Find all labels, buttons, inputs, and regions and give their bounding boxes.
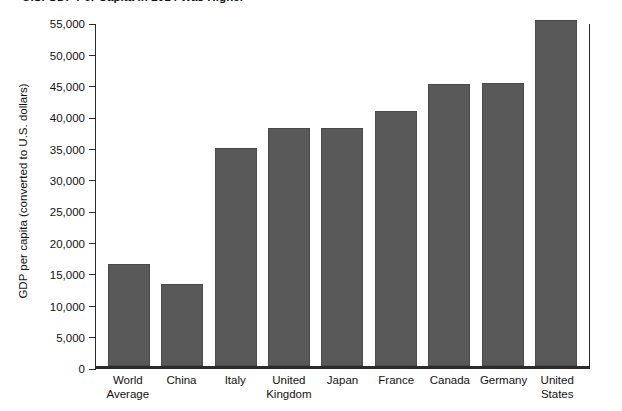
bar: [161, 284, 203, 366]
x-axis-label-line: France: [369, 374, 423, 388]
x-axis-label-line: Canada: [423, 374, 477, 388]
bar-slot: [209, 24, 262, 366]
x-axis-label-line: World: [101, 374, 155, 388]
x-axis-label: France: [369, 374, 423, 401]
x-axis-label: Japan: [316, 374, 370, 401]
bar-slot: [102, 24, 155, 366]
y-tick-label: 15,000: [50, 270, 85, 282]
y-tick-label: 45,000: [50, 81, 85, 93]
y-tick-label: 20,000: [50, 238, 85, 250]
x-axis-label: Canada: [423, 374, 477, 401]
y-tick-mark: [89, 212, 96, 213]
y-tick-mark: [89, 243, 96, 244]
bar: [321, 128, 363, 366]
x-axis-label: Italy: [208, 374, 262, 401]
chart-title: U.S. GDP Per Capita in 2014 Was Higher: [22, 0, 244, 3]
plot-area: 55,00050,00045,00040,00035,00030,00025,0…: [95, 24, 590, 369]
y-tick-mark: [89, 369, 96, 370]
y-tick-label: 0: [79, 364, 85, 376]
y-axis-title: GDP per capita (converted to U.S. dollar…: [17, 56, 29, 326]
y-tick-mark: [89, 55, 96, 56]
bar-slot: [476, 24, 529, 366]
bar-slot: [155, 24, 208, 366]
y-tick-label: 10,000: [50, 301, 85, 313]
y-tick-mark: [89, 24, 96, 25]
bar: [535, 20, 577, 366]
x-axis-label: WorldAverage: [101, 374, 155, 401]
bar: [375, 111, 417, 366]
x-axis-label: UnitedStates: [530, 374, 584, 401]
y-tick-mark: [89, 306, 96, 307]
x-axis-label-line: States: [530, 388, 584, 402]
x-axis-label-line: Kingdom: [262, 388, 316, 402]
x-axis-label: China: [155, 374, 209, 401]
bar: [215, 148, 257, 366]
bar-slot: [369, 24, 422, 366]
y-tick-mark: [89, 274, 96, 275]
x-axis-label-line: Japan: [316, 374, 370, 388]
bar-slot: [316, 24, 369, 366]
x-axis-labels: WorldAverageChinaItalyUnitedKingdomJapan…: [95, 374, 590, 401]
y-tick-label: 25,000: [50, 207, 85, 219]
x-axis-label-line: Germany: [477, 374, 531, 388]
x-axis-label-line: United: [530, 374, 584, 388]
bar: [482, 83, 524, 366]
y-tick-label: 5,000: [56, 332, 85, 344]
y-tick-mark: [89, 118, 96, 119]
bar: [428, 84, 470, 366]
bar: [108, 264, 150, 366]
bar-slot: [423, 24, 476, 366]
x-axis-label-line: China: [155, 374, 209, 388]
y-tick-label: 35,000: [50, 144, 85, 156]
y-tick-label: 55,000: [50, 19, 85, 31]
y-tick-mark: [89, 337, 96, 338]
bar-slot: [530, 24, 583, 366]
x-axis-label: UnitedKingdom: [262, 374, 316, 401]
y-tick-mark: [89, 149, 96, 150]
y-tick-mark: [89, 180, 96, 181]
x-axis-label: Germany: [477, 374, 531, 401]
bar: [268, 128, 310, 366]
x-axis-label-line: Average: [101, 388, 155, 402]
y-tick-label: 40,000: [50, 113, 85, 125]
y-tick-mark: [89, 86, 96, 87]
x-axis-label-line: United: [262, 374, 316, 388]
bar-slot: [262, 24, 315, 366]
x-axis-label-line: Italy: [208, 374, 262, 388]
bar-series: [96, 24, 589, 366]
y-tick-label: 50,000: [50, 50, 85, 62]
y-tick-label: 30,000: [50, 176, 85, 188]
